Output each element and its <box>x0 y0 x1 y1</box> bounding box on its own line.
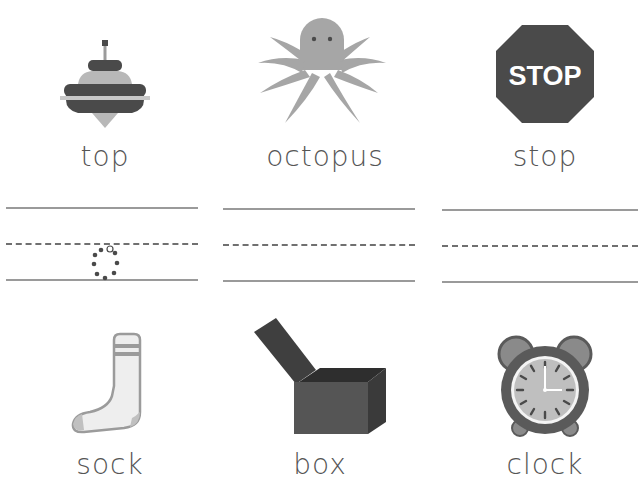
octopus-icon <box>250 15 400 135</box>
spinning-top-icon <box>40 38 170 138</box>
writing-lines-3[interactable] <box>442 208 638 283</box>
baseline <box>442 281 638 283</box>
sock-icon <box>50 330 170 440</box>
picture-card-top: top <box>40 30 170 190</box>
midline-dashed <box>442 245 638 247</box>
top-line <box>442 209 638 211</box>
alarm-clock-icon <box>480 330 610 440</box>
dotted-o-trace-icon <box>86 243 126 283</box>
picture-card-sock: sock <box>50 330 170 484</box>
word-label: sock <box>50 448 170 481</box>
top-line <box>223 208 415 210</box>
picture-card-clock: clock <box>480 330 610 484</box>
stop-sign-text: STOP <box>480 61 610 92</box>
picture-card-octopus: octopus <box>250 10 400 190</box>
midline-dashed <box>223 244 415 246</box>
picture-card-box: box <box>240 310 400 484</box>
box-icon <box>240 310 400 440</box>
word-label: top <box>40 140 170 173</box>
writing-lines-1[interactable] <box>6 207 198 282</box>
baseline <box>223 280 415 282</box>
writing-lines-2[interactable] <box>223 207 415 282</box>
picture-card-stop: STOP stop <box>480 15 610 195</box>
top-line <box>6 207 198 209</box>
word-label: stop <box>480 140 610 173</box>
word-label: box <box>240 448 400 481</box>
word-label: clock <box>480 448 610 481</box>
word-label: octopus <box>250 140 400 173</box>
